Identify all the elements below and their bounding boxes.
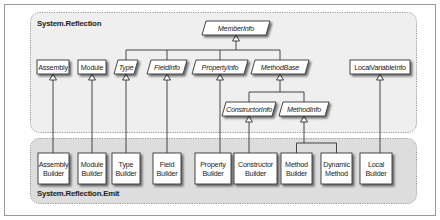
node-field-info[interactable]: FieldInfo [147, 60, 187, 74]
node-label-line1: Module [81, 160, 104, 169]
node-label-line1: Assembly [39, 160, 69, 169]
node-local-builder[interactable]: LocalBuilder [360, 153, 392, 184]
node-label: LocalVariableInfo [354, 63, 406, 72]
node-method-builder[interactable]: MethodBuilder [281, 153, 312, 184]
node-local-variable-info[interactable]: LocalVariableInfo [350, 60, 410, 74]
node-label-line2: Builder [245, 169, 267, 178]
node-label: PropertyInfo [202, 63, 239, 72]
node-label: MemberInfo [218, 24, 255, 33]
node-type[interactable]: Type [114, 60, 138, 74]
node-member-info[interactable]: MemberInfo [202, 21, 270, 35]
group-label-system-reflection-emit: System.Reflection.Emit [37, 189, 120, 198]
node-constructor-info[interactable]: ConstructorInfo [222, 102, 276, 116]
node-method-info[interactable]: MethodInfo [279, 102, 329, 116]
node-property-builder[interactable]: PropertyBuilder [195, 153, 231, 184]
node-module[interactable]: Module [78, 60, 106, 74]
group-label-system-reflection: System.Reflection [37, 19, 102, 28]
class-hierarchy-diagram: System.Reflection System.Reflection.Emit… [0, 0, 440, 220]
node-label: MethodInfo [287, 105, 321, 114]
node-module-builder[interactable]: ModuleBuilder [78, 153, 106, 184]
node-label-line1: Property [200, 160, 226, 169]
node-label-line1: Method [285, 160, 308, 169]
node-label-line2: Builder [157, 169, 179, 178]
node-label-line1: Type [119, 160, 134, 169]
node-label-line2: Builder [366, 169, 388, 178]
node-label-line2: Builder [116, 169, 138, 178]
node-assembly-builder[interactable]: AssemblyBuilder [38, 153, 69, 184]
node-label: Assembly [38, 63, 68, 72]
node-label-line2: Builder [82, 169, 104, 178]
node-label: ConstructorInfo [226, 105, 272, 114]
node-label-line2: Builder [43, 169, 65, 178]
node-label-line1: Local [368, 160, 385, 169]
node-label-line2: Builder [203, 169, 225, 178]
node-assembly[interactable]: Assembly [37, 60, 69, 74]
node-label: FieldInfo [154, 63, 180, 72]
node-label: Type [119, 63, 134, 72]
node-label: MethodBase [261, 63, 300, 72]
node-field-builder[interactable]: FieldBuilder [153, 153, 181, 184]
node-label-line2: Builder [286, 169, 308, 178]
node-label-line1: Dynamic [323, 160, 350, 169]
node-label-line1: Field [160, 160, 175, 169]
node-property-info[interactable]: PropertyInfo [192, 60, 248, 74]
node-method-base[interactable]: MethodBase [251, 60, 309, 74]
node-constructor-builder[interactable]: ConstructorBuilder [234, 153, 277, 184]
node-label-line2: Method [325, 169, 348, 178]
node-label: Module [81, 63, 104, 72]
node-label-line1: Constructor [238, 160, 274, 169]
node-dynamic-method[interactable]: DynamicMethod [321, 153, 352, 184]
node-type-builder[interactable]: TypeBuilder [112, 153, 140, 184]
